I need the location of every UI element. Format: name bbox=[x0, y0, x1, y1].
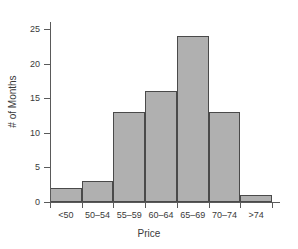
y-tick-label: 10 bbox=[30, 129, 40, 138]
x-tick-label: 65–69 bbox=[180, 211, 205, 220]
y-tick-label: 5 bbox=[35, 163, 40, 172]
y-tick-mark bbox=[44, 64, 50, 65]
y-tick-label: 0 bbox=[35, 198, 40, 207]
x-tick-mark bbox=[240, 202, 241, 208]
x-tick-mark bbox=[272, 202, 273, 208]
x-tick-label: <50 bbox=[58, 211, 73, 220]
y-tick-mark bbox=[44, 29, 50, 30]
x-tick-mark bbox=[50, 202, 51, 208]
histogram-bar bbox=[209, 112, 241, 202]
x-tick-label: 70–74 bbox=[212, 211, 237, 220]
x-tick-mark bbox=[82, 202, 83, 208]
x-tick-mark bbox=[209, 202, 210, 208]
y-tick-mark bbox=[44, 167, 50, 168]
x-tick-mark bbox=[177, 202, 178, 208]
x-tick-mark bbox=[145, 202, 146, 208]
x-axis-title: Price bbox=[0, 228, 298, 239]
plot-area bbox=[50, 22, 272, 202]
histogram-bar bbox=[50, 188, 82, 202]
x-tick-label: 50–54 bbox=[85, 211, 110, 220]
x-tick-mark bbox=[113, 202, 114, 208]
histogram-bar bbox=[177, 36, 209, 202]
x-axis-line bbox=[50, 202, 280, 203]
y-tick-label: 20 bbox=[30, 60, 40, 69]
y-tick-label: 25 bbox=[30, 25, 40, 34]
x-tick-label: 55–59 bbox=[117, 211, 142, 220]
histogram-bar bbox=[82, 181, 114, 202]
y-tick-mark bbox=[44, 133, 50, 134]
histogram-bar bbox=[240, 195, 272, 202]
y-axis-line bbox=[50, 22, 51, 202]
histogram-bar bbox=[145, 91, 177, 202]
histogram-figure: 0510152025 <5050–5455–5960–6465–6970–74>… bbox=[0, 0, 298, 249]
x-tick-label: >74 bbox=[249, 211, 264, 220]
histogram-bar bbox=[113, 112, 145, 202]
y-tick-mark bbox=[44, 98, 50, 99]
y-axis-title: # of Months bbox=[7, 54, 18, 150]
y-tick-label: 15 bbox=[30, 94, 40, 103]
x-tick-label: 60–64 bbox=[148, 211, 173, 220]
